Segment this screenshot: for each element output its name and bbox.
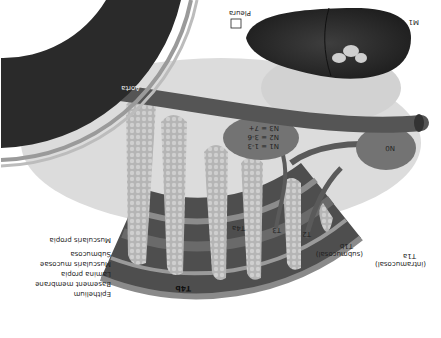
stage-t4b: T4b	[175, 284, 191, 293]
layer-lamina-propia: Lamina propia	[61, 270, 111, 278]
esophageal-cancer-staging-diagram: Aorta Pleura M1 N0 N1 = 1-3 N2 = 3-6 N3 …	[0, 0, 441, 338]
n3-label: N3 = 7+	[249, 124, 279, 132]
stage-t1b-sub: (submucosal)	[315, 250, 363, 258]
diagram-canvas: Aorta Pleura M1 N0 N1 = 1-3 N2 = 3-6 N3 …	[0, 0, 441, 338]
pleura-bracket	[231, 19, 241, 28]
stage-t2: T2	[302, 230, 312, 238]
n2-label: N2 = 3-6	[247, 133, 279, 141]
stage-t1a: T1a	[403, 252, 417, 260]
n0-label: N0	[385, 144, 395, 152]
n1-label: N1 = 1-3	[248, 142, 279, 150]
stage-t3: T3	[272, 226, 282, 234]
stage-t1a-sub: (intramucosal)	[375, 260, 426, 268]
layer-basement-membrane: Basement membrane	[35, 280, 111, 288]
pleura-label: Pleura	[229, 9, 251, 17]
stage-t4a: T4a	[232, 224, 246, 232]
layer-muscularis-propia: Muscularis propia	[50, 236, 111, 244]
layer-epithelium: Epithelium	[73, 290, 111, 298]
aorta-label: Aorta	[121, 84, 140, 92]
layer-submucosa: Submucosa	[70, 250, 111, 258]
m1-label: M1	[409, 18, 420, 26]
stage-t1b: T1b	[339, 242, 354, 250]
layer-muscularis-mucosae: Muscularis mucosae	[40, 260, 111, 268]
